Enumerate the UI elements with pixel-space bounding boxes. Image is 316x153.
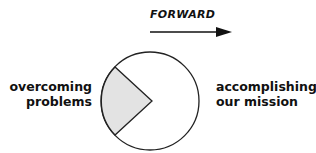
left-label: overcoming problems bbox=[9, 79, 92, 109]
right-label-line1: accomplishing bbox=[216, 79, 316, 94]
right-label: accomplishing our mission bbox=[216, 79, 316, 109]
forward-arrow-icon bbox=[150, 27, 232, 37]
diagram-canvas bbox=[0, 0, 316, 153]
left-label-line2: problems bbox=[9, 94, 92, 109]
right-label-line2: our mission bbox=[216, 94, 316, 109]
forward-label: FORWARD bbox=[150, 8, 215, 21]
left-label-line1: overcoming bbox=[9, 79, 92, 94]
